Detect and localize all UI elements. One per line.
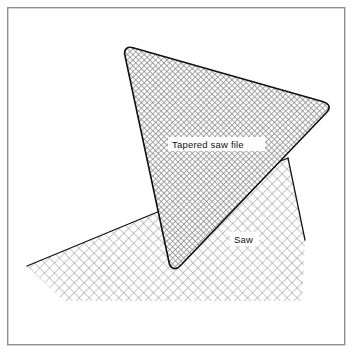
saw-label: Saw — [234, 234, 253, 245]
label-saw: Saw — [230, 232, 259, 246]
diagram-canvas: Tapered saw file Saw — [0, 0, 353, 353]
tapered-saw-file-label: Tapered saw file — [172, 139, 244, 150]
figure-container: Tapered saw file Saw — [0, 0, 353, 353]
label-tapered-saw-file: Tapered saw file — [168, 137, 265, 151]
